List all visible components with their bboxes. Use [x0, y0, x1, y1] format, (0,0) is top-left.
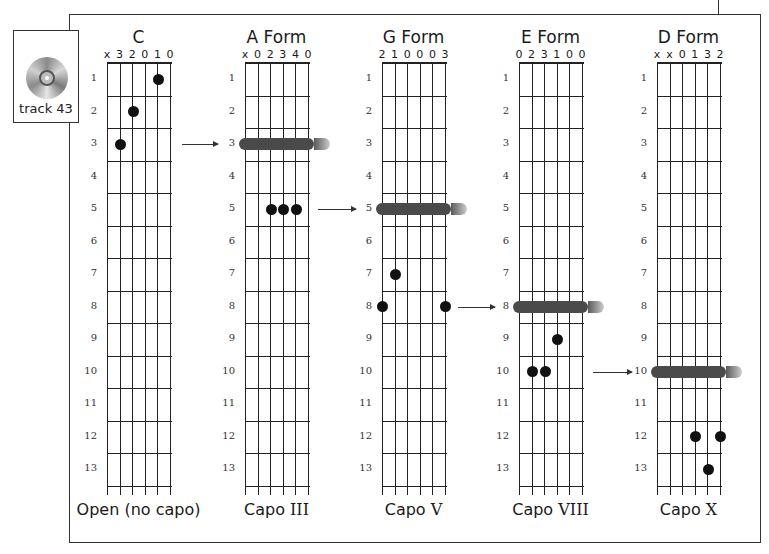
- fret-line: [519, 291, 584, 292]
- fret-number: 3: [489, 137, 509, 148]
- fret-line: [382, 96, 447, 97]
- open-string-marker: 2: [526, 48, 538, 61]
- open-string-marker: 0: [426, 48, 438, 61]
- fret-number: 8: [77, 300, 97, 311]
- fret-number: 9: [489, 332, 509, 343]
- fret-line: [107, 486, 172, 487]
- fret-number: 10: [489, 365, 509, 376]
- fret-line: [245, 323, 310, 324]
- fret-line: [107, 323, 172, 324]
- fret-number: 10: [77, 365, 97, 376]
- fret-number: 7: [627, 267, 647, 278]
- capo-bar: [651, 366, 726, 378]
- finger-dot: [390, 269, 401, 280]
- fret-number: 7: [489, 267, 509, 278]
- fret-line: [107, 128, 172, 129]
- fret-line: [382, 356, 447, 357]
- open-string-marker: 2: [126, 48, 138, 61]
- finger-dot: [540, 366, 551, 377]
- fret-line: [519, 161, 584, 162]
- caption-text: Capo: [385, 500, 431, 519]
- audio-track-badge[interactable]: track 43: [13, 30, 79, 123]
- fret-line: [657, 323, 722, 324]
- fret-line: [382, 453, 447, 454]
- fret-line: [382, 388, 447, 389]
- fret-number: 6: [215, 235, 235, 246]
- fret-line: [519, 323, 584, 324]
- fret-number: 5: [489, 202, 509, 213]
- fret-line: [245, 258, 310, 259]
- nut-line: [657, 62, 722, 64]
- open-string-marker: 3: [701, 48, 713, 61]
- fret-number: 3: [627, 137, 647, 148]
- open-string-marker: x: [101, 48, 113, 61]
- fret-number: 8: [215, 300, 235, 311]
- open-string-marker: 0: [414, 48, 426, 61]
- fret-line: [245, 388, 310, 389]
- fret-number: 10: [215, 365, 235, 376]
- open-string-marker: x: [651, 48, 663, 61]
- open-string-marker: 2: [714, 48, 726, 61]
- open-string-marker: 1: [689, 48, 701, 61]
- fret-number: 1: [489, 72, 509, 83]
- fret-number: 5: [627, 202, 647, 213]
- track-label: track 43: [14, 101, 78, 116]
- nut-line: [245, 62, 310, 64]
- finger-dot: [153, 74, 164, 85]
- open-string-marker: 0: [302, 48, 314, 61]
- open-string-marker: 0: [513, 48, 525, 61]
- fret-line: [657, 356, 722, 357]
- finger-dot: [128, 106, 139, 117]
- fret-number: 6: [627, 235, 647, 246]
- fret-line: [657, 128, 722, 129]
- fret-number: 11: [352, 397, 372, 408]
- fret-number: 5: [77, 202, 97, 213]
- fret-number: 3: [77, 137, 97, 148]
- finger-dot: [115, 139, 126, 150]
- fret-number: 1: [77, 72, 97, 83]
- open-string-marker: 0: [676, 48, 688, 61]
- fret-number: 1: [352, 72, 372, 83]
- transition-arrow: [318, 209, 356, 210]
- finger-dot: [291, 204, 302, 215]
- fret-number: 9: [352, 332, 372, 343]
- open-string-marker: 1: [551, 48, 563, 61]
- chord-title: E Form: [491, 27, 611, 47]
- fret-line: [245, 453, 310, 454]
- open-string-marker: 0: [252, 48, 264, 61]
- fret-line: [657, 258, 722, 259]
- fret-line: [519, 388, 584, 389]
- open-string-marker: 3: [538, 48, 550, 61]
- fret-line: [519, 453, 584, 454]
- fret-line: [107, 453, 172, 454]
- fret-line: [382, 128, 447, 129]
- open-string-marker: 0: [164, 48, 176, 61]
- open-string-marker: 1: [389, 48, 401, 61]
- open-string-marker: 4: [289, 48, 301, 61]
- fret-line: [107, 226, 172, 227]
- finger-dot: [552, 334, 563, 345]
- fret-line: [519, 356, 584, 357]
- open-string-marker: 1: [151, 48, 163, 61]
- fret-line: [245, 193, 310, 194]
- capo-roman-numeral: V: [431, 500, 443, 519]
- fret-number: 8: [352, 300, 372, 311]
- fret-number: 13: [352, 462, 372, 473]
- transition-arrow: [593, 372, 632, 373]
- fret-number: 11: [627, 397, 647, 408]
- caption-text: Capo: [512, 500, 558, 519]
- fret-line: [245, 226, 310, 227]
- fret-number: 4: [77, 170, 97, 181]
- capo-handle: [588, 301, 604, 313]
- fret-line: [382, 291, 447, 292]
- fret-number: 13: [77, 462, 97, 473]
- finger-dot: [278, 204, 289, 215]
- fret-number: 2: [352, 105, 372, 116]
- frame-top-stub: [718, 0, 719, 14]
- fret-number: 13: [215, 462, 235, 473]
- fret-line: [107, 161, 172, 162]
- fret-number: 6: [77, 235, 97, 246]
- capo-handle: [451, 203, 467, 215]
- fret-line: [657, 193, 722, 194]
- fret-line: [245, 356, 310, 357]
